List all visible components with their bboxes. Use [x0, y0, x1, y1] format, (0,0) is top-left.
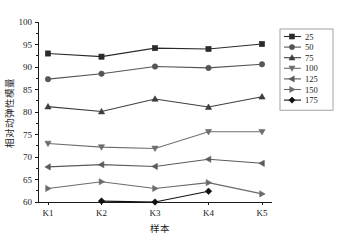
- data-point-triangle-right: [153, 185, 158, 191]
- data-point-triangle-up: [152, 96, 158, 101]
- series-100: [45, 129, 265, 151]
- x-tick-label: K3: [150, 208, 161, 218]
- data-point-diamond: [152, 199, 159, 206]
- y-tick-label: 70: [23, 152, 33, 162]
- data-point-square: [259, 41, 264, 46]
- legend-label-150: 150: [305, 85, 318, 95]
- series-group: [45, 41, 265, 205]
- x-axis-title: 样本: [150, 223, 170, 234]
- legend-label-50: 50: [305, 42, 314, 52]
- y-tick-label: 80: [23, 107, 33, 117]
- data-point-triangle-left: [152, 163, 157, 169]
- data-point-triangle-left: [259, 160, 264, 166]
- y-axis-title: 相对动弹性模量: [4, 78, 15, 148]
- line-chart: 6065707580859095100 K1K2K3K4K5 样本 相对动弹性模…: [0, 0, 337, 241]
- legend-label-100: 100: [305, 63, 318, 73]
- legend-label-75: 75: [305, 53, 314, 63]
- y-tick-label: 85: [23, 85, 33, 95]
- y-tick-label: 65: [23, 175, 33, 185]
- y-tick-label: 100: [19, 17, 33, 27]
- x-tick-label: K2: [96, 208, 107, 218]
- data-point-circle: [45, 76, 50, 81]
- y-tick-label: 75: [23, 130, 33, 140]
- legend: 255075100125150175: [280, 29, 333, 110]
- data-point-square: [290, 34, 295, 39]
- data-point-circle: [99, 71, 104, 76]
- x-tick-label: K5: [257, 208, 268, 218]
- data-point-triangle-right: [99, 179, 104, 185]
- legend-label-25: 25: [305, 32, 314, 42]
- series-25: [45, 41, 264, 59]
- data-point-triangle-left: [205, 156, 210, 162]
- data-point-square: [99, 54, 104, 59]
- data-point-triangle-right: [260, 191, 265, 197]
- series-150: [46, 179, 265, 197]
- data-point-triangle-right: [46, 185, 51, 191]
- data-point-diamond: [205, 188, 212, 195]
- y-tick-label: 95: [23, 40, 33, 50]
- data-point-triangle-up: [45, 103, 51, 108]
- data-point-square: [206, 46, 211, 51]
- data-point-circle: [206, 65, 211, 70]
- data-point-circle: [289, 44, 294, 49]
- data-point-triangle-right: [206, 180, 211, 186]
- x-tick-label: K1: [43, 208, 54, 218]
- legend-label-125: 125: [305, 74, 318, 84]
- series-50: [45, 62, 264, 82]
- data-point-circle: [259, 62, 264, 67]
- y-tick-label: 60: [23, 197, 33, 207]
- data-point-circle: [152, 64, 157, 69]
- data-point-square: [45, 51, 50, 56]
- y-tick-group: 6065707580859095100: [19, 17, 39, 207]
- chart-container: 6065707580859095100 K1K2K3K4K5 样本 相对动弹性模…: [0, 0, 337, 241]
- data-point-triangle-up: [259, 94, 265, 99]
- data-point-diamond: [98, 198, 105, 205]
- data-point-square: [152, 46, 157, 51]
- legend-label-175: 175: [305, 95, 318, 105]
- series-75: [45, 94, 265, 114]
- series-125: [45, 156, 264, 170]
- data-point-triangle-left: [45, 164, 50, 170]
- x-tick-label: K4: [203, 208, 214, 218]
- y-axis: 6065707580859095100: [19, 17, 39, 207]
- data-point-triangle-left: [98, 162, 103, 168]
- y-tick-label: 90: [23, 62, 33, 72]
